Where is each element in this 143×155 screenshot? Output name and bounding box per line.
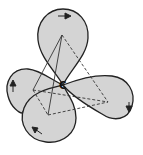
orbital-figure: C: [0, 0, 143, 155]
sp3-orbital-diagram: C: [0, 0, 143, 155]
top-orbital-lobe: [38, 9, 88, 85]
carbon-label: C: [59, 80, 66, 91]
